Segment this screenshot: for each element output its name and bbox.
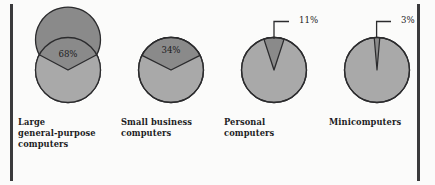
pie-svg-1: 68% bbox=[34, 36, 102, 104]
pie-chart-4 bbox=[343, 36, 411, 104]
pie-svg-2: 34% bbox=[137, 36, 205, 104]
pie-chart-figure: 68% Large general-purpose computers 34% bbox=[0, 0, 435, 185]
pie-caption-4: Minicomputers bbox=[329, 117, 433, 128]
left-vertical-rule bbox=[10, 4, 13, 181]
pie-panel-large-general-purpose-computers: 68% Large general-purpose computers bbox=[18, 0, 118, 185]
pie-panels: 68% Large general-purpose computers 34% bbox=[18, 0, 418, 185]
pie-panel-personal-computers: 11% Personal computers bbox=[224, 0, 324, 185]
pie-panel-small-business-computers: 34% Small business computers bbox=[121, 0, 221, 185]
pie-caption-4-line-1: Minicomputers bbox=[329, 117, 433, 128]
pie-caption-1-line-3: computers bbox=[18, 139, 122, 150]
pie-caption-3-line-1: Personal bbox=[224, 117, 328, 128]
pie-value-label-3: 11% bbox=[299, 15, 318, 25]
pie-svg-3 bbox=[240, 36, 308, 104]
pie-caption-1-line-1: Large bbox=[18, 117, 122, 128]
pie-panel-minicomputers: 3% Minicomputers bbox=[327, 0, 427, 185]
pie-caption-2-line-2: computers bbox=[121, 128, 225, 139]
pie-caption-1-line-2: general-purpose bbox=[18, 128, 122, 139]
pie-caption-2: Small business computers bbox=[121, 117, 225, 139]
pie-caption-1: Large general-purpose computers bbox=[18, 117, 122, 151]
pie-leader-line-3 bbox=[274, 22, 289, 40]
pie-svg-4 bbox=[343, 36, 411, 104]
pie-value-label-2: 34% bbox=[161, 45, 180, 55]
pie-caption-3-line-2: computers bbox=[224, 128, 328, 139]
pie-leader-line-4 bbox=[377, 22, 391, 39]
pie-value-label-4: 3% bbox=[401, 15, 415, 25]
pie-value-label-1: 68% bbox=[58, 49, 77, 59]
pie-chart-2: 34% bbox=[137, 36, 205, 104]
pie-caption-3: Personal computers bbox=[224, 117, 328, 139]
pie-chart-3 bbox=[240, 36, 308, 104]
pie-caption-2-line-1: Small business bbox=[121, 117, 225, 128]
pie-chart-1: 68% bbox=[34, 36, 102, 104]
